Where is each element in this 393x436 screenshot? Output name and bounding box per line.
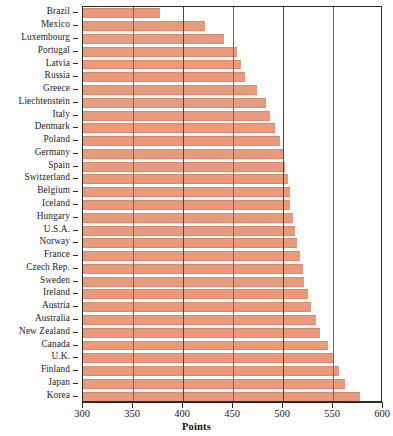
x-axis-tick-label-550: 550 xyxy=(324,408,340,419)
y-axis-tick xyxy=(73,140,78,141)
bar-chart: BrazilMexicoLuxembourgPortugalLatviaRuss… xyxy=(0,0,393,436)
bar-u-k xyxy=(83,353,333,363)
y-axis-label-france: France xyxy=(44,250,70,260)
y-axis-tick xyxy=(73,12,78,13)
bar-new-zealand xyxy=(83,328,320,338)
bar-poland xyxy=(83,136,280,146)
x-axis-tick-label-450: 450 xyxy=(224,408,240,419)
y-axis-tick xyxy=(73,127,78,128)
bar-switzerland xyxy=(83,174,288,184)
bar-belgium xyxy=(83,187,290,197)
y-axis-label-iceland: Iceland xyxy=(42,199,70,209)
bar-finland xyxy=(83,366,339,376)
bar-italy xyxy=(83,111,270,121)
y-axis-tick xyxy=(73,242,78,243)
y-axis-tick xyxy=(73,178,78,179)
bar-rows xyxy=(83,7,381,401)
y-axis-label-mexico: Mexico xyxy=(41,20,70,30)
y-axis-label-switzerland: Switzerland xyxy=(24,173,70,183)
y-axis-category-labels: BrazilMexicoLuxembourgPortugalLatviaRuss… xyxy=(0,6,78,402)
y-axis-label-denmark: Denmark xyxy=(35,122,70,132)
gridline-500 xyxy=(283,7,284,401)
plot-area xyxy=(82,6,382,402)
y-axis-label-czech-rep: Czech Rep. xyxy=(26,263,70,273)
bar-austria xyxy=(83,302,311,312)
gridline-450 xyxy=(233,7,234,401)
x-axis-tick-label-500: 500 xyxy=(274,408,290,419)
y-axis-label-canada: Canada xyxy=(42,340,70,350)
y-axis-label-japan: Japan xyxy=(48,378,70,388)
bar-luxembourg xyxy=(83,34,224,44)
y-axis-tick xyxy=(73,319,78,320)
y-axis-tick xyxy=(73,217,78,218)
bar-iceland xyxy=(83,200,290,210)
y-axis-tick xyxy=(73,204,78,205)
y-axis-tick xyxy=(73,281,78,282)
y-axis-label-finland: Finland xyxy=(41,365,70,375)
x-axis-tick-label-300: 300 xyxy=(74,408,90,419)
y-axis-label-luxembourg: Luxembourg xyxy=(21,33,70,43)
y-axis-label-belgium: Belgium xyxy=(37,186,70,196)
y-axis-label-liechtenstein: Liechtenstein xyxy=(19,97,70,107)
y-axis-tick xyxy=(73,51,78,52)
y-axis-tick xyxy=(73,89,78,90)
y-axis-label-australia: Australia xyxy=(35,314,70,324)
bar-brazil xyxy=(83,8,160,18)
y-axis-tick xyxy=(73,153,78,154)
y-axis-tick xyxy=(73,332,78,333)
y-axis-tick xyxy=(73,370,78,371)
y-axis-tick xyxy=(73,102,78,103)
y-axis-tick xyxy=(73,230,78,231)
x-axis-tick-label-400: 400 xyxy=(174,408,190,419)
y-axis-tick xyxy=(73,166,78,167)
y-axis-label-new-zealand: New Zealand xyxy=(19,327,70,337)
y-axis-label-korea: Korea xyxy=(47,391,70,401)
bar-norway xyxy=(83,238,297,248)
bar-japan xyxy=(83,379,345,389)
y-axis-label-hungary: Hungary xyxy=(37,212,70,222)
y-axis-label-ireland: Ireland xyxy=(43,288,70,298)
y-axis-tick xyxy=(73,345,78,346)
bar-greece xyxy=(83,85,257,95)
bar-france xyxy=(83,251,300,261)
bar-u-s-a xyxy=(83,226,295,236)
y-axis-label-latvia: Latvia xyxy=(46,59,70,69)
gridline-350 xyxy=(133,7,134,401)
gridline-550 xyxy=(333,7,334,401)
bar-sweden xyxy=(83,277,304,287)
y-axis-tick xyxy=(73,396,78,397)
bar-liechtenstein xyxy=(83,98,266,108)
bar-russia xyxy=(83,72,245,82)
y-axis-tick xyxy=(73,383,78,384)
y-axis-tick xyxy=(73,38,78,39)
bar-denmark xyxy=(83,123,275,133)
bar-canada xyxy=(83,341,328,351)
y-axis-tick xyxy=(73,76,78,77)
bar-latvia xyxy=(83,60,241,70)
y-axis-label-brazil: Brazil xyxy=(47,7,70,17)
bar-spain xyxy=(83,162,285,172)
x-axis-tick-label-600: 600 xyxy=(374,408,390,419)
bar-hungary xyxy=(83,213,293,223)
bar-australia xyxy=(83,315,316,325)
bar-ireland xyxy=(83,289,308,299)
y-axis-label-russia: Russia xyxy=(45,71,70,81)
y-axis-label-italy: Italy xyxy=(52,110,70,120)
y-axis-label-germany: Germany xyxy=(35,148,70,158)
y-axis-label-portugal: Portugal xyxy=(38,46,70,56)
y-axis-tick xyxy=(73,191,78,192)
bar-mexico xyxy=(83,21,205,31)
y-axis-tick xyxy=(73,63,78,64)
y-axis-label-u-s-a: U.S.A. xyxy=(44,225,70,235)
y-axis-label-norway: Norway xyxy=(39,237,70,247)
y-axis-label-poland: Poland xyxy=(44,135,70,145)
y-axis-label-u-k: U.K. xyxy=(52,352,70,362)
gridline-400 xyxy=(183,7,184,401)
bar-portugal xyxy=(83,47,237,57)
y-axis-label-spain: Spain xyxy=(48,161,70,171)
y-axis-tick xyxy=(73,255,78,256)
y-axis-tick xyxy=(73,357,78,358)
y-axis-tick xyxy=(73,25,78,26)
x-axis-title: Points xyxy=(0,421,393,432)
y-axis-label-austria: Austria xyxy=(42,301,70,311)
